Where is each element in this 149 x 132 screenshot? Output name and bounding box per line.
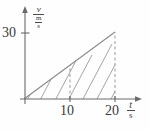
x-axis-unit-label: t s [127, 100, 135, 120]
y-axis-unit-denominator: s [35, 22, 42, 30]
y-axis-quantity-symbol: v [33, 5, 44, 14]
x-axis-tick-label-20: 20 [105, 104, 119, 118]
x-axis-tick-label-10: 10 [60, 104, 74, 118]
velocity-time-figure: 30 10 20 v m s t s [0, 0, 149, 132]
x-axis-unit: s [127, 110, 135, 120]
y-axis-unit-fraction: v m s [33, 5, 44, 30]
y-axis-arrow-icon [22, 6, 28, 13]
x-axis-arrow-icon [135, 96, 142, 101]
x-axis-quantity-symbol: t [127, 100, 135, 110]
y-axis-unit-numerator: m [35, 15, 42, 22]
y-axis-unit-inner-fraction: m s [35, 15, 42, 30]
y-axis-tick-label-30: 30 [2, 26, 16, 40]
y-axis-unit-label: v m s [33, 5, 44, 30]
x-axis-unit-fraction: t s [127, 100, 135, 120]
y-axis-unit-denominator-group: m s [33, 14, 44, 30]
